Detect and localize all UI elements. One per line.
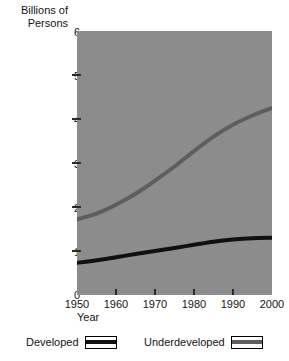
- x-tick-label-2000: 2000: [252, 299, 289, 310]
- legend-swatch-bar-developed: [86, 340, 116, 344]
- y-axis-title-line-2: Persons: [2, 17, 68, 30]
- y-axis-title: Billions of Persons: [2, 4, 68, 30]
- legend-label-underdeveloped: Underdeveloped: [144, 337, 225, 348]
- x-tick-label-1960: 1960: [96, 299, 136, 310]
- legend-swatch-bar-underdeveloped: [232, 340, 262, 344]
- line-developed: [77, 238, 272, 263]
- legend-swatch-developed: [85, 336, 117, 349]
- line-underdeveloped: [77, 108, 272, 219]
- series-lines: [77, 31, 272, 295]
- legend-label-developed: Developed: [26, 337, 79, 348]
- plot-area: [77, 31, 272, 295]
- chart-legend: Developed Underdeveloped: [26, 331, 276, 353]
- x-axis-title: Year: [77, 312, 99, 323]
- x-tick-label-1950: 1950: [57, 299, 97, 310]
- x-tick-label-1980: 1980: [174, 299, 214, 310]
- legend-item-underdeveloped[interactable]: Underdeveloped: [144, 331, 263, 353]
- x-tick-label-1990: 1990: [213, 299, 253, 310]
- x-tick-label-1970: 1970: [135, 299, 175, 310]
- y-axis-title-line-1: Billions of: [2, 4, 68, 17]
- legend-swatch-underdeveloped: [231, 336, 263, 349]
- legend-item-developed[interactable]: Developed: [26, 331, 117, 353]
